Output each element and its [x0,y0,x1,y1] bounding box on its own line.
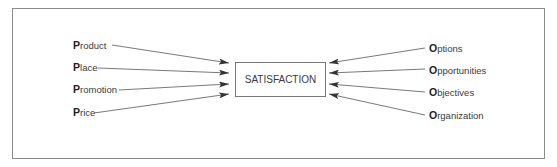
arrow-options [329,48,425,63]
factor-product: Product [73,40,106,51]
arrow-opportunities [329,69,425,73]
factor-objectives: Objectives [429,87,474,98]
arrow-product [112,45,229,63]
factor-place: Place [73,62,97,73]
factor-opportunities: Opportunities [429,65,486,76]
factor-price: Price [73,107,95,118]
arrow-objectives [329,84,425,92]
satisfaction-label: SATISFACTION [245,74,317,85]
factor-options: Options [429,43,463,54]
factor-organization: Organization [429,110,484,121]
arrow-place [98,68,229,73]
arrow-organization [329,94,425,115]
arrow-price [94,94,229,113]
satisfaction-box: SATISFACTION [235,62,326,97]
factor-promotion: Promotion [73,84,117,95]
arrow-promotion [119,84,229,90]
